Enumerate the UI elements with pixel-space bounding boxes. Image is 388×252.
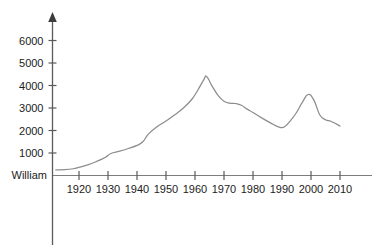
line-chart: 100020003000400050006000 192019301940195…: [0, 0, 388, 252]
x-tick-label: 2000: [299, 183, 323, 195]
x-tick-label: 1990: [270, 183, 294, 195]
y-tick-label: 2000: [19, 125, 43, 137]
x-tick-label: 1970: [212, 183, 236, 195]
x-tick-label: 1940: [125, 183, 149, 195]
x-axis-ticks: 1920193019401950196019701980199020002010: [67, 171, 352, 195]
y-axis-arrow-icon: [48, 12, 57, 22]
y-tick-label: 6000: [19, 35, 43, 47]
baseline-series-label: William: [12, 169, 47, 181]
y-tick-label: 5000: [19, 57, 43, 69]
x-tick-label: 1920: [67, 183, 91, 195]
series-line-william: [56, 76, 340, 170]
y-tick-label: 4000: [19, 80, 43, 92]
y-tick-label: 3000: [19, 102, 43, 114]
y-tick-label: 1000: [19, 147, 43, 159]
x-tick-label: 1950: [154, 183, 178, 195]
x-tick-label: 1930: [96, 183, 120, 195]
y-axis-ticks: 100020003000400050006000: [19, 35, 56, 160]
chart-container: 100020003000400050006000 192019301940195…: [0, 0, 388, 252]
x-tick-label: 1960: [183, 183, 207, 195]
x-tick-label: 2010: [328, 183, 352, 195]
x-tick-label: 1980: [241, 183, 265, 195]
